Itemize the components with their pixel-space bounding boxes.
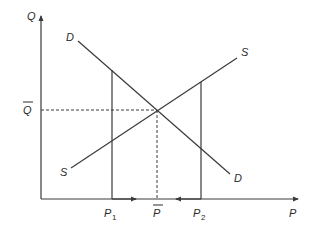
supply-line: [71, 58, 237, 168]
p2-label: P: [193, 207, 201, 219]
supply-demand-diagram: Q P D D S S Q P: [0, 0, 318, 234]
p-bar-label: P: [153, 207, 161, 219]
p1-subscript: 1: [112, 213, 117, 222]
y-axis-label: Q: [27, 10, 36, 22]
p1-label: P: [104, 207, 112, 219]
demand-curve: D D: [66, 31, 242, 184]
demand-label-top: D: [66, 31, 74, 43]
p2-subscript: 2: [201, 213, 206, 222]
x-axis: P: [41, 199, 298, 219]
supply-label-bottom: S: [60, 166, 68, 178]
diagram-svg: Q P D D S S Q P: [0, 0, 318, 234]
q-bar-label: Q: [23, 104, 32, 116]
demand-label-bottom: D: [234, 172, 242, 184]
p2-level: P 2: [176, 82, 206, 222]
supply-label-top: S: [241, 46, 249, 58]
demand-line: [78, 41, 230, 174]
equilibrium-guides: Q P: [23, 102, 163, 219]
x-axis-label: P: [289, 207, 297, 219]
supply-curve: S S: [60, 46, 249, 178]
